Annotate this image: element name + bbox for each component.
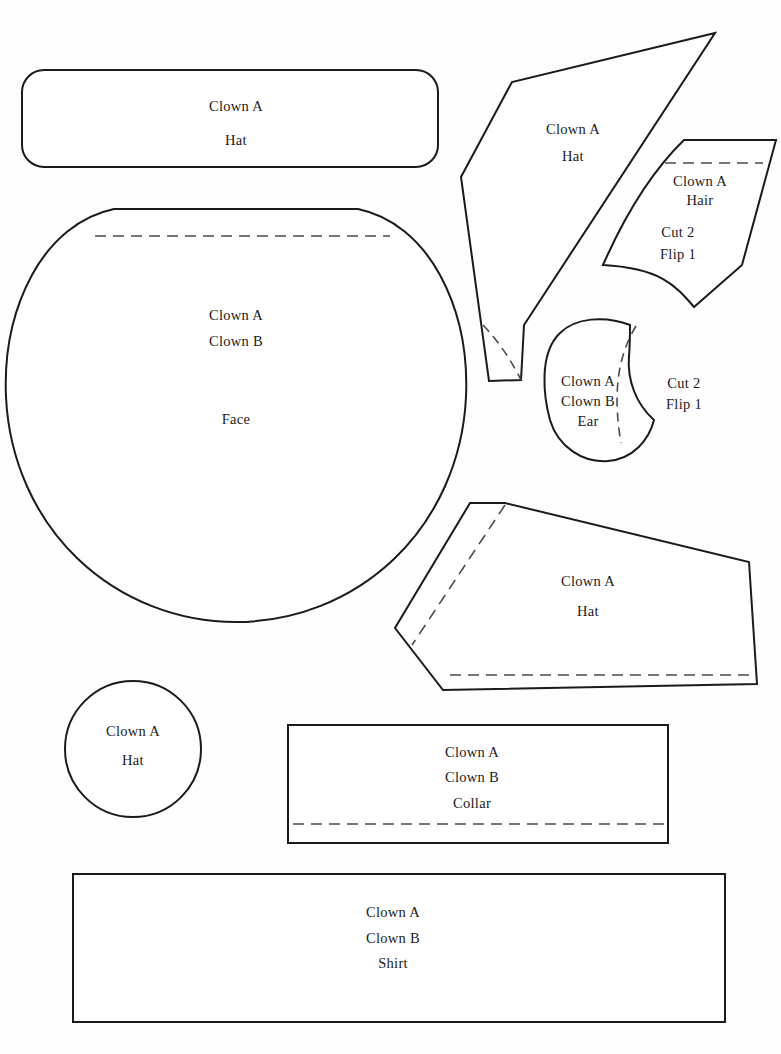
piece-shirt[interactable]: Clown A Clown B Shirt — [73, 874, 725, 1022]
shirt-label-line3: Shirt — [378, 955, 408, 971]
hat-brim-label-line1: Clown A — [561, 573, 615, 589]
hat-brim-label-line2: Hat — [577, 603, 599, 619]
hair-label-line3: Cut 2 — [661, 224, 694, 240]
shirt-outline[interactable] — [73, 874, 725, 1022]
face-label-line3: Face — [222, 411, 251, 427]
pattern-sheet-page: Clown A Hat Clown A Clown B Face Clown A… — [0, 0, 781, 1054]
shirt-label-line1: Clown A — [366, 904, 420, 920]
hat-top-circle-outline[interactable] — [65, 681, 201, 817]
ear-label-line3: Ear — [577, 413, 598, 429]
hat-band-outline[interactable] — [22, 70, 438, 167]
face-label-line1: Clown A — [209, 307, 263, 323]
hat-brim-outline[interactable] — [395, 503, 757, 690]
hair-label-line1: Clown A — [673, 173, 727, 189]
face-label-line2: Clown B — [209, 333, 263, 349]
hat-top-circle-label-line2: Hat — [122, 752, 144, 768]
collar-label-line1: Clown A — [445, 744, 499, 760]
hat-cone-label-line2: Hat — [562, 148, 584, 164]
hat-cone-label-line1: Clown A — [546, 121, 600, 137]
ear-label-line1: Clown A — [561, 373, 615, 389]
ear-note-line1: Cut 2 — [667, 375, 700, 391]
collar-label-line3: Collar — [453, 795, 491, 811]
piece-hat-band[interactable]: Clown A Hat — [22, 70, 438, 167]
ear-label-line2: Clown B — [561, 393, 615, 409]
hair-label-line2: Hair — [687, 192, 714, 208]
piece-ear[interactable]: Clown A Clown B Ear Cut 2 Flip 1 — [544, 319, 702, 461]
piece-hat-brim[interactable]: Clown A Hat — [395, 503, 757, 690]
hat-band-label-line1: Clown A — [209, 98, 263, 114]
hat-top-circle-label-line1: Clown A — [106, 723, 160, 739]
pattern-canvas: Clown A Hat Clown A Clown B Face Clown A… — [0, 0, 781, 1054]
collar-label-line2: Clown B — [445, 769, 499, 785]
hat-band-label-line2: Hat — [225, 132, 247, 148]
shirt-label-line2: Clown B — [366, 930, 420, 946]
ear-note-line2: Flip 1 — [666, 396, 702, 412]
piece-hat-top-circle[interactable]: Clown A Hat — [65, 681, 201, 817]
ear-outline[interactable] — [544, 319, 654, 461]
piece-face[interactable]: Clown A Clown B Face — [6, 209, 467, 622]
piece-collar[interactable]: Clown A Clown B Collar — [288, 725, 668, 843]
hair-label-line4: Flip 1 — [660, 246, 696, 262]
